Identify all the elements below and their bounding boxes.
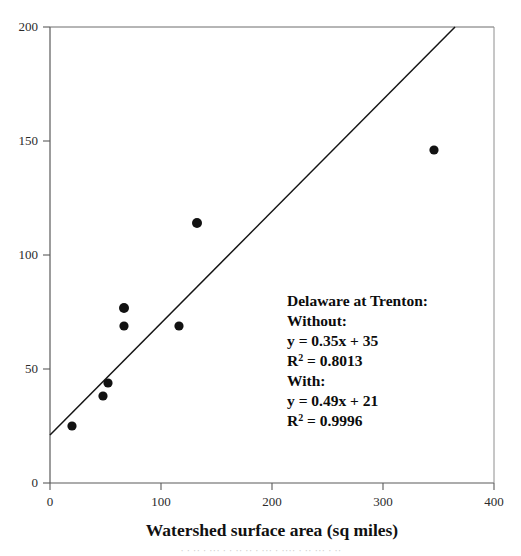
annotation-line-without: Without: <box>287 312 347 329</box>
data-point <box>174 321 183 330</box>
regression-annotation: Delaware at Trenton: Without: y = 0.35x … <box>287 292 428 429</box>
x-tick-label-200: 200 <box>262 494 282 509</box>
x-tick-label-0: 0 <box>47 494 54 509</box>
data-point <box>429 145 438 154</box>
axis-frame <box>50 27 494 483</box>
y-axis-ticks <box>43 27 50 483</box>
r2-base: R <box>287 412 299 429</box>
data-point <box>119 303 129 313</box>
x-axis-ticks <box>50 483 494 490</box>
x-tick-label-100: 100 <box>151 494 171 509</box>
annotation-line-equation-without: y = 0.35x + 35 <box>287 332 379 349</box>
trend-line-group <box>50 27 455 435</box>
data-point <box>67 421 76 430</box>
cutoff-caption-fragment: · · ·· · ··· · · ·· ·· · ··· · ···· · ··… <box>180 546 341 556</box>
data-point-markers <box>67 145 438 430</box>
x-tick-label-300: 300 <box>373 494 393 509</box>
y-tick-label-50: 50 <box>25 361 38 376</box>
r2-base: R <box>287 352 299 369</box>
x-axis-title: Watershed surface area (sq miles) <box>146 520 399 540</box>
data-point <box>103 378 112 387</box>
r2-value: = 0.8013 <box>303 352 362 369</box>
annotation-line-r2-without: R2 = 0.8013 <box>287 352 363 369</box>
data-point <box>192 218 202 228</box>
data-point <box>119 321 128 330</box>
scatter-plot: 0 50 100 150 200 0 100 200 300 400 <box>0 0 521 556</box>
regression-trend-line <box>50 27 455 435</box>
data-point <box>98 391 107 400</box>
y-tick-label-200: 200 <box>19 19 39 34</box>
r2-value: = 0.9996 <box>303 412 362 429</box>
y-tick-label-150: 150 <box>19 133 39 148</box>
y-tick-label-0: 0 <box>32 475 39 490</box>
x-tick-label-400: 400 <box>484 494 504 509</box>
annotation-line-r2-with: R2 = 0.9996 <box>287 412 363 429</box>
y-tick-label-100: 100 <box>19 247 39 262</box>
annotation-line-equation-with: y = 0.49x + 21 <box>287 392 378 409</box>
annotation-line-location: Delaware at Trenton: <box>287 292 428 309</box>
annotation-line-with: With: <box>287 372 325 389</box>
chart-figure: 0 50 100 150 200 0 100 200 300 400 <box>0 0 521 556</box>
